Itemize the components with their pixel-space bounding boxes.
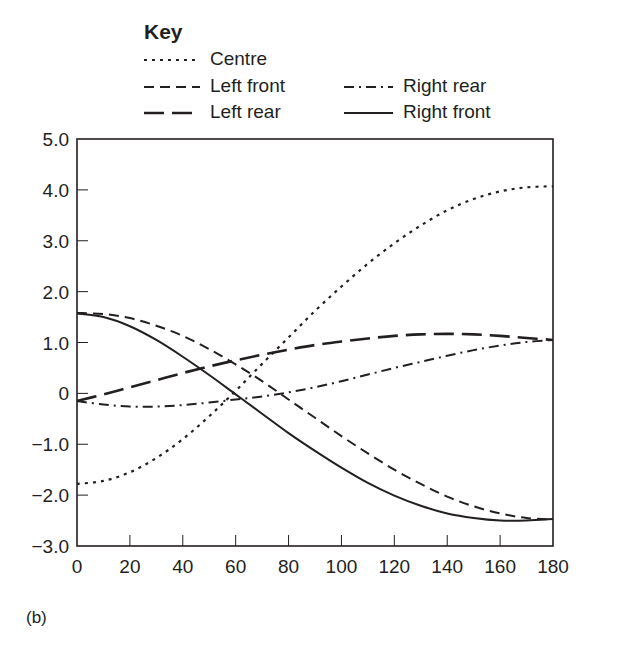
x-tick-label: 160 xyxy=(484,556,516,577)
x-tick-label: 120 xyxy=(378,556,410,577)
axis-ticks: 020406080100120140160180−3.0−2.0−1.001.0… xyxy=(31,129,568,577)
y-tick-label: 1.0 xyxy=(43,333,69,354)
series-left-front xyxy=(77,313,553,520)
x-tick-label: 140 xyxy=(431,556,463,577)
x-tick-label: 60 xyxy=(225,556,246,577)
x-tick-label: 0 xyxy=(72,556,83,577)
series-lines xyxy=(77,186,553,521)
legend-label-centre: Centre xyxy=(210,48,267,70)
y-tick-label: −1.0 xyxy=(31,434,69,455)
y-tick-label: −3.0 xyxy=(31,536,69,557)
x-tick-label: 20 xyxy=(119,556,140,577)
y-tick-label: −2.0 xyxy=(31,485,69,506)
y-tick-label: 3.0 xyxy=(43,231,69,252)
x-tick-label: 100 xyxy=(326,556,358,577)
y-tick-label: 5.0 xyxy=(43,129,69,150)
x-tick-label: 40 xyxy=(172,556,193,577)
panel-label: (b) xyxy=(26,608,47,628)
legend-label-left-front: Left front xyxy=(210,75,285,97)
series-left-rear xyxy=(77,334,553,401)
series-right-rear xyxy=(77,340,553,407)
y-tick-label: 2.0 xyxy=(43,282,69,303)
y-tick-label: 4.0 xyxy=(43,180,69,201)
y-tick-label: 0 xyxy=(58,383,69,404)
plot-frame xyxy=(77,139,553,546)
legend-label-left-rear: Left rear xyxy=(210,101,281,123)
legend-label-right-front: Right front xyxy=(403,101,491,123)
line-chart: 020406080100120140160180−3.0−2.0−1.001.0… xyxy=(0,0,637,651)
legend-label-right-rear: Right rear xyxy=(403,75,486,97)
x-tick-label: 180 xyxy=(537,556,569,577)
x-tick-label: 80 xyxy=(278,556,299,577)
